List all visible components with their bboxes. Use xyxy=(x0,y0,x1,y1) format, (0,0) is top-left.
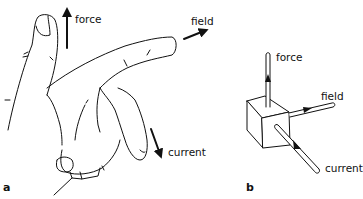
hand-drawing xyxy=(5,15,176,195)
force-label-b: force xyxy=(276,52,302,63)
diagram-canvas xyxy=(0,0,363,199)
field-label-b: field xyxy=(321,91,344,102)
current-arrow-a xyxy=(151,129,160,154)
field-rod-b xyxy=(289,103,335,117)
field-arrow-a xyxy=(184,31,204,39)
force-rod-b xyxy=(265,53,271,107)
current-label-b: current xyxy=(325,163,363,174)
force-label-a: force xyxy=(75,14,101,25)
field-label-a: field xyxy=(191,16,214,27)
panel-letter-b: b xyxy=(246,182,254,193)
panel-letter-a: a xyxy=(3,182,10,193)
current-rod-b xyxy=(274,125,319,174)
current-label-a: current xyxy=(168,147,206,158)
